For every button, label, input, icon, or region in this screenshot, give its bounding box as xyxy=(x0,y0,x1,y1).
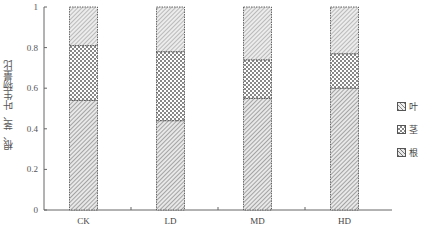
bar-segment-茎 xyxy=(331,54,359,89)
x-category-label: HD xyxy=(338,216,351,226)
legend-label-root: 根 xyxy=(409,146,418,159)
bar-segment-叶 xyxy=(244,7,272,60)
stacked-bar-chart: 00.20.40.60.81CKLDMDHD xyxy=(0,0,436,237)
y-tick-label: 0.8 xyxy=(27,43,39,53)
bar-segment-根 xyxy=(157,121,185,210)
legend-item-stem: 茎 xyxy=(397,118,418,141)
y-tick-label: 0.4 xyxy=(27,124,39,134)
y-tick-label: 1 xyxy=(34,2,39,12)
x-category-label: LD xyxy=(165,216,177,226)
root-swatch-icon xyxy=(397,148,406,157)
bar-segment-叶 xyxy=(157,7,185,52)
bar-segment-茎 xyxy=(70,46,98,101)
x-category-label: MD xyxy=(250,216,265,226)
bar-segment-根 xyxy=(331,88,359,210)
y-tick-label: 0.6 xyxy=(27,83,39,93)
bar-segment-茎 xyxy=(157,52,185,121)
leaf-swatch-icon xyxy=(397,102,406,111)
y-tick-label: 0.2 xyxy=(27,164,38,174)
legend-label-leaf: 叶 xyxy=(409,100,418,113)
y-axis-label: 根、茎、叶生物量比 xyxy=(2,60,16,150)
legend-item-root: 根 xyxy=(397,141,418,164)
legend: 叶 茎 根 xyxy=(397,95,418,164)
bar-segment-叶 xyxy=(331,7,359,54)
legend-item-leaf: 叶 xyxy=(397,95,418,118)
bar-segment-根 xyxy=(70,100,98,210)
x-category-label: CK xyxy=(77,216,90,226)
bar-segment-根 xyxy=(244,98,272,210)
legend-label-stem: 茎 xyxy=(409,123,418,136)
stem-swatch-icon xyxy=(397,125,406,134)
y-tick-label: 0 xyxy=(34,205,39,215)
bar-segment-茎 xyxy=(244,60,272,99)
bars xyxy=(70,7,359,210)
bar-segment-叶 xyxy=(70,7,98,46)
